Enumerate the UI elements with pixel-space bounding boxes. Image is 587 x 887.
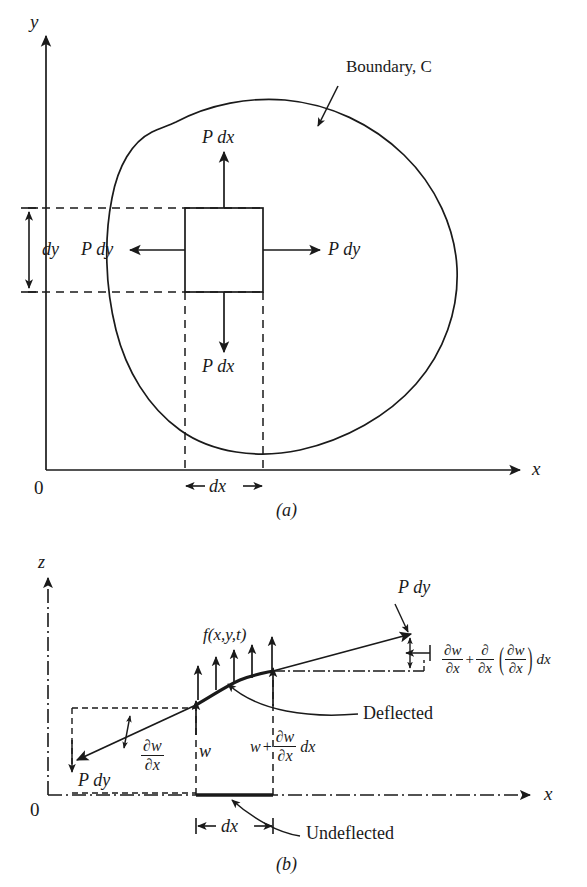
undeflected-leader [232,800,300,836]
fraction-term2: ∂ ∂x [476,643,494,677]
dimension-label-dy: dy [42,240,59,258]
force-label-pdx-top: P dx [202,128,234,146]
fraction-dw-dx-left: ∂w ∂x [141,738,164,774]
panel-caption-a: (a) [276,501,297,519]
fraction-denominator: ∂x [274,747,297,764]
fraction-numerator: ∂w [442,643,463,660]
boundary-label-text: Boundary, C [346,57,432,76]
undeflected-label: Undeflected [306,824,394,842]
deflected-leader [228,684,358,715]
axis-label-z: z [38,553,45,571]
deflected-label: Deflected [363,704,433,722]
origin-label-a: 0 [34,478,44,497]
fraction-denominator: ∂x [505,660,526,676]
axis-label-x: x [532,459,540,478]
force-label-pdy-right-b: P dy [398,578,430,596]
pdy-right-leader-arrow [395,604,408,632]
paren-close: ) [526,642,533,677]
origin-label-b: 0 [30,800,40,819]
fraction-denominator: ∂x [476,660,494,676]
force-line-pdy-right [273,634,411,671]
fraction-term3: ∂w ∂x [505,643,526,677]
equation-trail-dx: dx [533,651,550,668]
figure-root: y x 0 Boundary, C P dx P dx P dy P dy dy… [0,0,587,887]
boundary-label: Boundary, C [346,58,432,75]
force-label-pdy-left: P dy [81,240,113,258]
boundary-curve-c [107,99,457,454]
equation-slope-right: ∂w ∂x + ∂ ∂x ( ∂w ∂x ) dx [442,643,551,677]
force-label-pdx-bottom: P dx [202,357,234,375]
equation-plus-sign: + [463,651,475,668]
panel-a-vectors [21,36,520,486]
panel-b-vectors [48,578,530,836]
equation-trail-dx: dx [296,738,315,756]
fraction-numerator: ∂w [141,738,164,756]
force-label-pdy-right: P dy [328,240,360,258]
equation-slope-left: ∂w ∂x [141,738,164,774]
differential-element-rect [185,208,263,292]
equation-plus-sign: + [261,738,274,756]
fraction-term1: ∂w ∂x [442,643,463,677]
equation-deflection-right: w + ∂w ∂x dx [250,729,315,765]
fraction-denominator: ∂x [442,660,463,676]
fraction-numerator: ∂ [476,643,494,660]
dimension-label-dx-a: dx [209,477,226,495]
force-label-pdy-left-b: P dy [78,771,110,789]
fraction-numerator: ∂w [274,729,297,747]
dimension-label-dx-b: dx [221,817,238,835]
axis-label-x-b: x [544,784,552,803]
fraction-denominator: ∂x [141,756,164,773]
slope-angle-arrow-left [124,716,130,748]
equation-lead-w: w [250,738,261,756]
panel-caption-b: (b) [276,855,297,873]
fraction-numerator: ∂w [505,643,526,660]
axis-label-y: y [30,12,38,31]
force-line-pdy-left [77,705,196,760]
fraction-dw-dx-right: ∂w ∂x [274,729,297,765]
deflection-label-w: w [199,742,211,760]
paren-open: ( [498,642,505,677]
load-label: f(x,y,t) [203,626,246,643]
